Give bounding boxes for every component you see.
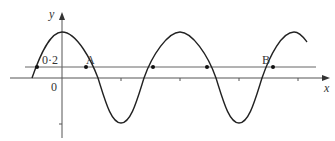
line-value-label: 0·2 [42, 53, 58, 67]
x-axis-label: x [323, 81, 330, 95]
intersection-point-b [271, 65, 275, 69]
intersection-point [35, 65, 39, 69]
intersection-point [151, 65, 155, 69]
y-axis-arrow-icon [59, 12, 65, 20]
point-b-label: B [262, 53, 270, 67]
origin-label: 0 [51, 80, 57, 94]
sine-diagram: y x 0 0·2 A B [0, 0, 335, 141]
point-a-label: A [86, 53, 95, 67]
intersection-point [205, 65, 209, 69]
y-axis-label: y [48, 7, 55, 21]
